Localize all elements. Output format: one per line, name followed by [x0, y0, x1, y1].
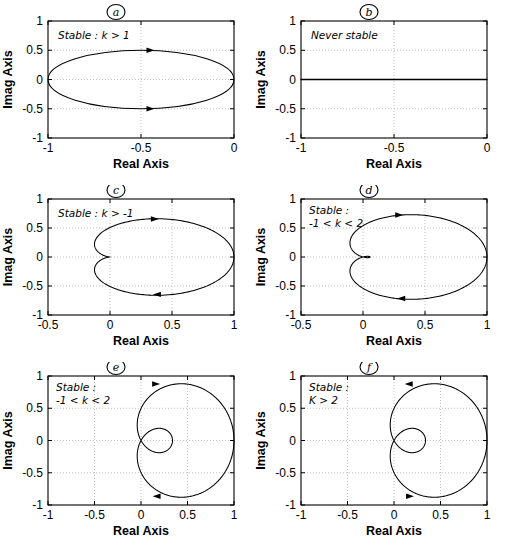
y-tick-label: -0.5	[275, 102, 296, 116]
x-tick-label: -1	[43, 141, 54, 155]
handwritten-annotation-line1: Stable :	[56, 381, 96, 393]
y-tick-label: -1	[32, 308, 43, 322]
x-tick-label: 0	[107, 318, 114, 332]
y-tick-label: 1	[289, 192, 296, 206]
x-axis-title: Real Axis	[113, 334, 169, 348]
nyquist-panel-f: -1-0.500.51-1-0.500.51Real AxisImag Axis…	[253, 362, 506, 552]
y-tick-label: 0	[289, 434, 296, 448]
y-tick-label: 0.5	[26, 401, 43, 415]
y-tick-label: 0	[289, 250, 296, 264]
x-axis-title: Real Axis	[113, 524, 169, 538]
y-tick-label: 1	[36, 14, 43, 28]
x-tick-label: 0.5	[432, 508, 449, 522]
figure-panel-grid: -1-0.50-1-0.500.51Real AxisImag AxisStab…	[0, 0, 506, 552]
nyquist-panel-b: -1-0.50-1-0.500.51Real AxisImag AxisNeve…	[253, 0, 506, 185]
x-tick-label: 1	[484, 508, 491, 522]
direction-arrow	[153, 494, 161, 499]
x-tick-label: 0	[231, 141, 238, 155]
direction-arrow	[147, 48, 155, 53]
x-tick-label: 0.5	[417, 318, 434, 332]
direction-arrow	[395, 212, 403, 217]
y-tick-label: -0.5	[22, 466, 43, 480]
y-tick-label: -1	[32, 498, 43, 512]
x-tick-label: 0.5	[164, 318, 181, 332]
y-tick-label: 1	[289, 14, 296, 28]
handwritten-annotation: Never stable	[311, 29, 378, 41]
x-tick-label: 0.5	[179, 508, 196, 522]
x-axis-title: Real Axis	[113, 157, 169, 171]
nyquist-panel-d: -0.500.51-1-0.500.51Real AxisImag AxisSt…	[253, 185, 506, 362]
panel-label-d: d	[365, 185, 372, 197]
x-tick-label: 0	[360, 318, 367, 332]
y-tick-label: -0.5	[275, 466, 296, 480]
nyquist-panel-e: -1-0.500.51-1-0.500.51Real AxisImag Axis…	[0, 362, 253, 552]
panel-label-c: c	[113, 185, 119, 197]
handwritten-annotation: Stable : k > 1	[58, 29, 130, 41]
y-tick-label: -1	[32, 131, 43, 145]
y-tick-label: -0.5	[22, 102, 43, 116]
y-tick-label: 0.5	[279, 221, 296, 235]
x-tick-label: -0.5	[84, 508, 105, 522]
y-tick-label: -1	[285, 131, 296, 145]
y-axis-title: Imag Axis	[254, 228, 268, 287]
y-tick-label: -0.5	[22, 279, 43, 293]
x-tick-label: 1	[231, 508, 238, 522]
handwritten-annotation-line1: Stable :	[309, 381, 349, 393]
handwritten-annotation: Stable : k > -1	[58, 207, 134, 219]
y-tick-label: 0	[36, 73, 43, 87]
panel-label-b: b	[365, 6, 372, 19]
handwritten-annotation-line2: -1 < k < 2	[56, 394, 110, 406]
x-tick-label: -1	[296, 141, 307, 155]
direction-arrow	[152, 381, 160, 386]
y-axis-title: Imag Axis	[254, 411, 268, 470]
y-tick-label: -0.5	[275, 279, 296, 293]
y-tick-label: 0.5	[26, 221, 43, 235]
y-tick-label: -1	[285, 308, 296, 322]
x-tick-label: 0	[484, 141, 491, 155]
y-axis-title: Imag Axis	[1, 411, 15, 470]
y-tick-label: 0.5	[279, 401, 296, 415]
direction-arrow	[406, 494, 414, 499]
y-tick-label: 1	[289, 369, 296, 383]
y-tick-label: 0	[36, 250, 43, 264]
handwritten-annotation-line2: -1 < k < 2	[309, 217, 363, 229]
x-tick-label: -0.5	[384, 141, 405, 155]
x-tick-label: 0	[138, 508, 145, 522]
x-axis-title: Real Axis	[366, 334, 422, 348]
nyquist-panel-c: -0.500.51-1-0.500.51Real AxisImag AxisSt…	[0, 185, 253, 362]
y-tick-label: -1	[285, 498, 296, 512]
handwritten-annotation-line1: Stable :	[309, 204, 349, 216]
direction-arrow	[151, 216, 159, 221]
y-tick-label: 1	[36, 192, 43, 206]
direction-arrow	[153, 292, 161, 297]
y-tick-label: 1	[36, 369, 43, 383]
handwritten-annotation-line2: K > 2	[309, 394, 338, 406]
y-axis-title: Imag Axis	[1, 228, 15, 287]
direction-arrow	[147, 106, 155, 111]
y-tick-label: 0.5	[26, 43, 43, 57]
direction-arrow	[405, 381, 413, 386]
y-tick-label: 0	[36, 434, 43, 448]
x-tick-label: 1	[231, 318, 238, 332]
x-tick-label: 0	[391, 508, 398, 522]
y-axis-title: Imag Axis	[254, 50, 268, 109]
y-tick-label: 0.5	[279, 43, 296, 57]
x-tick-label: 1	[484, 318, 491, 332]
panel-label-a: a	[113, 6, 120, 19]
nyquist-panel-a: -1-0.50-1-0.500.51Real AxisImag AxisStab…	[0, 0, 253, 185]
y-axis-title: Imag Axis	[1, 50, 15, 109]
x-tick-label: -1	[43, 508, 54, 522]
x-axis-title: Real Axis	[366, 157, 422, 171]
x-tick-label: -0.5	[337, 508, 358, 522]
y-tick-label: 0	[289, 73, 296, 87]
direction-arrow	[397, 296, 405, 301]
x-axis-title: Real Axis	[366, 524, 422, 538]
panel-label-e: e	[113, 362, 120, 374]
x-tick-label: -0.5	[131, 141, 152, 155]
x-tick-label: -1	[296, 508, 307, 522]
